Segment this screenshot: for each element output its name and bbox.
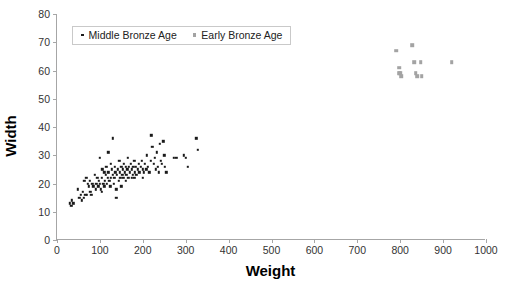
- data-point-middle-bronze-age: [94, 188, 96, 190]
- plot-area: 01020304050607080 0100200300400500600700…: [56, 14, 485, 240]
- data-point-middle-bronze-age: [118, 179, 120, 181]
- x-tick-label: 400: [220, 244, 238, 256]
- data-point-middle-bronze-age: [110, 177, 112, 179]
- data-point-middle-bronze-age: [162, 140, 164, 142]
- dot-marker-icon: [81, 34, 84, 37]
- data-point-middle-bronze-age: [158, 171, 160, 173]
- data-point-middle-bronze-age: [72, 202, 74, 204]
- x-tick: [486, 239, 487, 243]
- data-point-middle-bronze-age: [99, 157, 101, 159]
- data-point-middle-bronze-age: [127, 177, 129, 179]
- data-point-early-bronze-age: [450, 60, 454, 64]
- data-point-middle-bronze-age: [135, 174, 137, 176]
- data-point-middle-bronze-age: [154, 168, 156, 170]
- data-point-early-bronze-age: [394, 49, 398, 53]
- y-axis-title: Width: [2, 96, 19, 176]
- data-point-middle-bronze-age: [81, 199, 83, 201]
- data-point-middle-bronze-age: [112, 137, 114, 139]
- legend-item-early-bronze-age: Early Bronze Age: [193, 29, 283, 41]
- data-point-early-bronze-age: [420, 74, 424, 78]
- data-point-middle-bronze-age: [105, 165, 107, 167]
- data-point-middle-bronze-age: [109, 163, 111, 165]
- data-point-middle-bronze-age: [124, 179, 126, 181]
- y-tick: [53, 184, 57, 185]
- data-point-middle-bronze-age: [109, 185, 111, 187]
- y-tick: [53, 42, 57, 43]
- x-tick-label: 600: [306, 244, 324, 256]
- y-tick-label: 50: [38, 93, 50, 105]
- data-point-middle-bronze-age: [127, 157, 129, 159]
- x-axis-title: Weight: [56, 262, 485, 279]
- y-tick-label: 30: [38, 149, 50, 161]
- data-point-middle-bronze-age: [164, 165, 166, 167]
- data-point-middle-bronze-age: [163, 154, 165, 156]
- data-point-middle-bronze-age: [148, 171, 150, 173]
- data-point-middle-bronze-age: [138, 171, 140, 173]
- data-point-middle-bronze-age: [76, 188, 78, 190]
- x-tick-label: 500: [263, 244, 281, 256]
- data-point-middle-bronze-age: [100, 177, 102, 179]
- data-point-early-bronze-age: [419, 60, 423, 64]
- data-point-early-bronze-age: [397, 66, 401, 70]
- x-tick: [443, 239, 444, 243]
- x-tick: [100, 239, 101, 243]
- data-point-middle-bronze-age: [103, 185, 105, 187]
- data-point-middle-bronze-age: [70, 205, 72, 207]
- data-point-middle-bronze-age: [157, 165, 159, 167]
- x-tick: [143, 239, 144, 243]
- data-point-middle-bronze-age: [147, 165, 149, 167]
- data-point-middle-bronze-age: [86, 194, 88, 196]
- scatter-chart: Width 01020304050607080 0100200300400500…: [0, 0, 509, 295]
- x-tick-label: 0: [54, 244, 60, 256]
- y-tick: [53, 212, 57, 213]
- x-tick: [357, 239, 358, 243]
- x-tick: [229, 239, 230, 243]
- x-tick-label: 900: [434, 244, 452, 256]
- data-point-middle-bronze-age: [107, 171, 109, 173]
- x-tick: [57, 239, 58, 243]
- data-point-early-bronze-age: [399, 74, 403, 78]
- y-tick-label: 10: [38, 206, 50, 218]
- y-tick: [53, 155, 57, 156]
- x-tick: [186, 239, 187, 243]
- y-tick-label: 70: [38, 36, 50, 48]
- legend-label-middle-bronze-age: Middle Bronze Age: [89, 29, 177, 41]
- y-tick: [53, 99, 57, 100]
- data-point-middle-bronze-age: [115, 196, 117, 198]
- data-point-middle-bronze-age: [82, 196, 84, 198]
- data-point-middle-bronze-age: [154, 157, 156, 159]
- square-marker-icon: [193, 33, 197, 37]
- x-tick: [272, 239, 273, 243]
- legend-item-middle-bronze-age: Middle Bronze Age: [81, 29, 177, 41]
- y-tick-label: 60: [38, 65, 50, 77]
- data-point-middle-bronze-age: [197, 148, 199, 150]
- data-point-early-bronze-age: [416, 74, 420, 78]
- data-point-middle-bronze-age: [165, 171, 167, 173]
- x-tick-label: 1000: [474, 244, 497, 256]
- data-point-middle-bronze-age: [184, 157, 186, 159]
- data-point-middle-bronze-age: [159, 143, 161, 145]
- y-tick: [53, 14, 57, 15]
- data-point-middle-bronze-age: [146, 154, 148, 156]
- data-point-middle-bronze-age: [152, 163, 154, 165]
- data-point-middle-bronze-age: [83, 179, 85, 181]
- x-tick: [400, 239, 401, 243]
- data-point-middle-bronze-age: [151, 146, 153, 148]
- data-point-middle-bronze-age: [133, 160, 135, 162]
- data-point-middle-bronze-age: [187, 165, 189, 167]
- data-point-middle-bronze-age: [118, 160, 120, 162]
- data-point-middle-bronze-age: [112, 182, 114, 184]
- data-point-middle-bronze-age: [106, 182, 108, 184]
- data-point-middle-bronze-age: [107, 151, 109, 153]
- legend-label-early-bronze-age: Early Bronze Age: [201, 29, 282, 41]
- data-point-middle-bronze-age: [88, 185, 90, 187]
- y-tick-label: 80: [38, 8, 50, 20]
- x-tick-label: 300: [177, 244, 195, 256]
- data-point-middle-bronze-age: [99, 182, 101, 184]
- x-tick-label: 200: [134, 244, 152, 256]
- data-point-middle-bronze-age: [120, 185, 122, 187]
- data-point-middle-bronze-age: [116, 174, 118, 176]
- data-point-middle-bronze-age: [108, 179, 110, 181]
- data-point-middle-bronze-age: [101, 191, 103, 193]
- y-tick-label: 0: [44, 234, 50, 246]
